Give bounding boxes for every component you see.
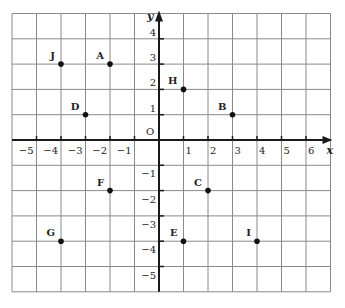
point-label-c: C [194,177,202,188]
point-marker-j [58,61,64,67]
tick-labels: −5−4−3−2−11234564321−1−2−3−4−5xyO [19,10,334,281]
y-tick-label: 1 [150,103,156,114]
point-label-j: J [49,50,55,61]
point-label-d: D [71,101,80,112]
x-tick-label: 6 [308,145,314,156]
x-tick-label: 1 [186,145,192,156]
coordinate-plane: −5−4−3−2−11234564321−1−2−3−4−5xyO JAHDBF… [0,0,345,308]
point-marker-i [254,238,260,244]
y-tick-label: 4 [150,27,156,38]
x-tick-label: 2 [210,145,216,156]
x-tick-label: 5 [284,145,290,156]
point-marker-d [83,112,89,118]
point-label-b: B [218,101,226,112]
x-tick-label: 3 [235,145,241,156]
point-marker-h [181,87,187,93]
x-axis-label: x [326,144,334,157]
point-marker-e [181,238,187,244]
y-axis-label: y [146,10,155,23]
x-tick-label: −5 [19,145,34,156]
point-marker-c [205,188,211,194]
y-tick-label: −3 [141,219,156,230]
y-tick-label: −4 [141,244,156,255]
point-marker-g [58,238,64,244]
y-axis-arrow-icon [155,11,163,22]
origin-label: O [146,126,154,137]
x-tick-label: 4 [259,145,265,156]
x-tick-label: −2 [92,145,107,156]
point-label-f: F [97,177,104,188]
x-tick-label: −3 [68,145,83,156]
point-marker-f [107,188,113,194]
y-tick-label: 3 [150,52,156,63]
y-tick-label: 2 [150,77,156,88]
point-label-g: G [46,227,55,238]
x-tick-label: −1 [117,145,132,156]
point-marker-b [230,112,236,118]
y-tick-label: −2 [141,194,156,205]
y-tick-label: −5 [141,270,156,281]
point-marker-a [107,61,113,67]
point-label-i: I [246,227,251,238]
y-tick-label: −1 [141,168,156,179]
x-tick-label: −4 [43,145,58,156]
point-label-a: A [95,50,104,61]
point-label-e: E [170,227,178,238]
point-label-h: H [168,75,177,86]
